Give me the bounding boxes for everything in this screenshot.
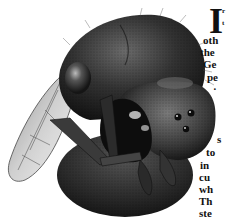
compound-eye [65,62,91,94]
insect-illustration [0,0,226,223]
